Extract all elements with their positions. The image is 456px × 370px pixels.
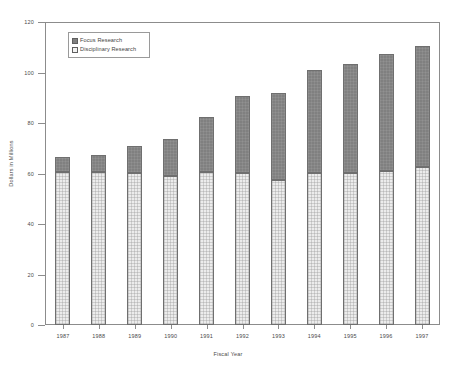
bar-segment-disciplinary-research[interactable] [379,171,394,325]
x-axis-tick [278,325,279,329]
y-axis-tick [38,22,45,23]
bar-1991[interactable] [199,117,214,325]
bar-1987[interactable] [55,157,70,325]
x-axis-tick [63,325,64,329]
bar-segment-focus-research[interactable] [379,54,394,171]
x-axis-tick-label: 1988 [79,333,119,340]
bar-1990[interactable] [163,139,178,325]
bar-segment-focus-research[interactable] [235,96,250,173]
bar-1993[interactable] [271,93,286,325]
x-axis-tick-label: 1987 [43,333,83,340]
bar-segment-focus-research[interactable] [271,93,286,180]
x-axis-tick-label: 1996 [366,333,406,340]
bar-segment-focus-research[interactable] [91,155,106,173]
x-axis-tick [99,325,100,329]
y-axis-tick-label: 120 [0,19,34,25]
y-axis-tick-label: 0 [0,322,34,328]
y-axis-tick [38,73,45,74]
legend-item-focus-research[interactable]: Focus Research [72,36,146,45]
bar-segment-focus-research[interactable] [55,157,70,172]
bar-segment-disciplinary-research[interactable] [415,167,430,325]
legend-swatch-disciplinary-research [72,47,78,53]
bar-segment-disciplinary-research[interactable] [343,173,358,325]
bar-1989[interactable] [127,146,142,325]
bar-segment-disciplinary-research[interactable] [199,172,214,325]
y-axis-tick [38,224,45,225]
chart-legend: Focus Research Disciplinary Research [68,32,150,58]
stacked-bar-chart: 020406080100120 198719881989199019911992… [0,0,456,370]
y-axis-tick-label: 40 [0,221,34,227]
bar-1994[interactable] [307,70,322,325]
bar-segment-disciplinary-research[interactable] [127,173,142,325]
x-axis-tick [350,325,351,329]
bar-segment-focus-research[interactable] [163,139,178,176]
y-axis-tick-label: 80 [0,120,34,126]
y-axis-tick-label: 60 [0,171,34,177]
bar-1996[interactable] [379,54,394,325]
bar-segment-focus-research[interactable] [307,70,322,174]
x-axis-tick [422,325,423,329]
bar-segment-focus-research[interactable] [199,117,214,173]
x-axis-tick-label: 1993 [258,333,298,340]
bar-segment-disciplinary-research[interactable] [91,172,106,325]
x-axis-tick-label: 1997 [402,333,442,340]
x-axis-tick [171,325,172,329]
bar-segment-disciplinary-research[interactable] [271,180,286,325]
bar-segment-disciplinary-research[interactable] [235,173,250,325]
legend-item-disciplinary-research[interactable]: Disciplinary Research [72,45,146,54]
x-axis-title: Fiscal Year [0,351,456,358]
y-axis-tick-label: 20 [0,272,34,278]
bar-1995[interactable] [343,64,358,325]
x-axis-tick [314,325,315,329]
legend-label-focus-research: Focus Research [80,37,122,44]
bar-1997[interactable] [415,46,430,325]
legend-swatch-focus-research [72,38,78,44]
x-axis-tick [243,325,244,329]
x-axis-tick-label: 1992 [223,333,263,340]
y-axis-tick [38,275,45,276]
x-axis-tick-label: 1990 [151,333,191,340]
y-axis-tick [38,174,45,175]
bar-segment-focus-research[interactable] [343,64,358,174]
x-axis-tick [207,325,208,329]
bar-1988[interactable] [91,155,106,325]
bar-1992[interactable] [235,96,250,325]
bar-segment-focus-research[interactable] [415,46,430,167]
bar-segment-disciplinary-research[interactable] [55,172,70,325]
x-axis-tick [386,325,387,329]
x-axis-tick-label: 1991 [187,333,227,340]
y-axis-tick [38,123,45,124]
x-axis-tick-label: 1989 [115,333,155,340]
bar-segment-disciplinary-research[interactable] [307,173,322,325]
legend-label-disciplinary-research: Disciplinary Research [80,46,136,53]
x-axis-tick [135,325,136,329]
x-axis-tick-label: 1994 [294,333,334,340]
y-axis-tick-label: 100 [0,70,34,76]
bar-segment-disciplinary-research[interactable] [163,176,178,325]
y-axis-tick [38,325,45,326]
x-axis-tick-label: 1995 [330,333,370,340]
bar-segment-focus-research[interactable] [127,146,142,174]
y-axis-title: Dollars in Millions [8,124,15,204]
